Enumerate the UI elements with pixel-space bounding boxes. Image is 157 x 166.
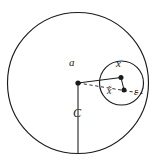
label-point-x: x (116, 58, 121, 69)
geometry-figure: a C x x̃ ε (0, 0, 157, 166)
label-radius-C: C (73, 107, 81, 119)
figure-canvas (0, 0, 157, 166)
label-center-a: a (69, 57, 75, 68)
center-point-a (75, 80, 80, 85)
epsilon-ball-circle (100, 61, 144, 105)
label-epsilon: ε (134, 87, 138, 97)
label-point-x-tilde: x̃ (107, 86, 111, 96)
point-x (119, 75, 124, 80)
point-x-tilde (122, 88, 127, 93)
